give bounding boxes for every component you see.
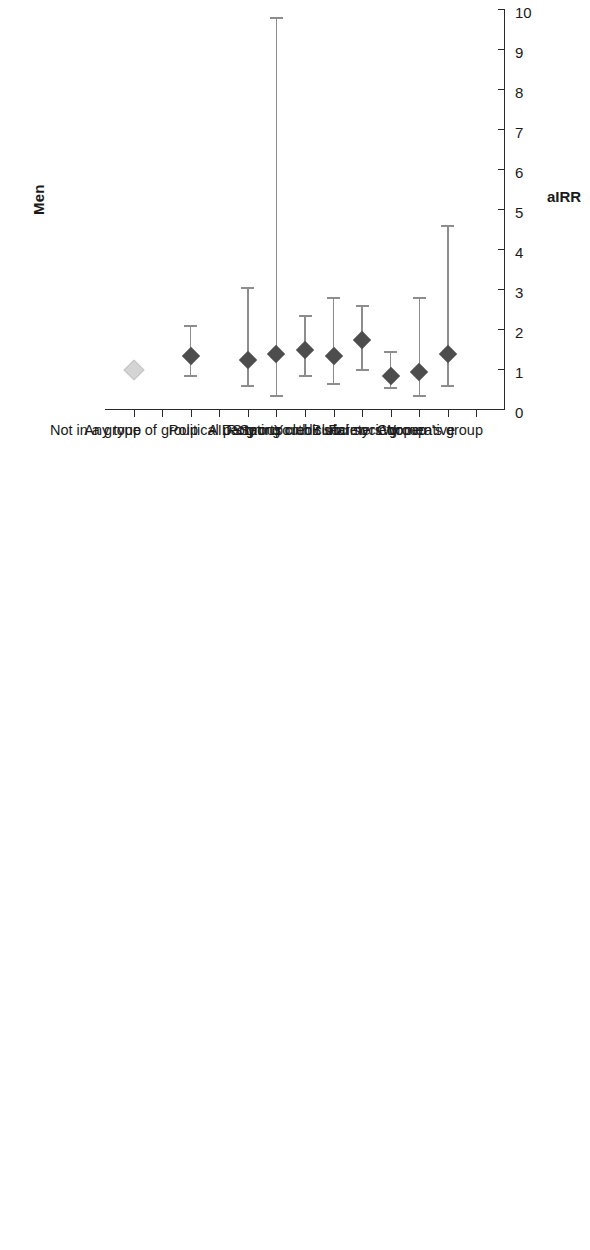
value-tick-label: 9 <box>515 44 523 61</box>
category-tick <box>476 410 477 417</box>
confidence-interval-cap <box>241 287 254 289</box>
value-tick <box>498 129 505 130</box>
value-axis-men <box>504 10 505 410</box>
value-tick <box>498 329 505 330</box>
confidence-interval-cap <box>184 325 197 327</box>
confidence-interval-cap <box>299 375 312 377</box>
confidence-interval-cap <box>384 351 397 353</box>
category-tick <box>448 410 449 417</box>
estimate-marker <box>382 367 400 385</box>
estimate-marker <box>324 347 342 365</box>
value-tick-label: 0 <box>515 404 523 421</box>
confidence-interval-cap <box>384 387 397 389</box>
value-tick <box>498 49 505 50</box>
category-tick <box>134 410 135 417</box>
panel-women: Women 0123aIRRWomen's groupCooperativeFa… <box>0 625 590 1250</box>
confidence-interval-bar <box>276 18 278 396</box>
value-tick <box>498 409 505 410</box>
panel-title-men: Men <box>30 184 47 215</box>
confidence-interval-cap <box>441 225 454 227</box>
confidence-interval-bar <box>333 298 335 384</box>
estimate-marker <box>353 331 371 349</box>
value-tick-label: 10 <box>515 4 532 21</box>
value-tick-label: 7 <box>515 124 523 141</box>
value-tick-label: 8 <box>515 84 523 101</box>
confidence-interval-bar <box>247 288 249 386</box>
plot-area-men: 012345678910aIRRWomen's groupCooperative… <box>105 10 505 410</box>
estimate-marker <box>267 345 285 363</box>
category-tick <box>305 410 306 417</box>
category-tick <box>248 410 249 417</box>
category-tick <box>419 410 420 417</box>
estimate-marker <box>296 341 314 359</box>
estimate-marker <box>239 351 257 369</box>
value-tick <box>498 169 505 170</box>
panel-men: Men 012345678910aIRRWomen's groupCoopera… <box>0 0 590 625</box>
confidence-interval-cap <box>413 395 426 397</box>
category-tick <box>191 410 192 417</box>
value-tick <box>498 9 505 10</box>
confidence-interval-cap <box>327 297 340 299</box>
category-label: Not in a group <box>49 422 140 438</box>
value-tick <box>498 249 505 250</box>
value-tick-label: 1 <box>515 364 523 381</box>
confidence-interval-cap <box>413 297 426 299</box>
forest-plot-figure: Men 012345678910aIRRWomen's groupCoopera… <box>0 0 590 1250</box>
value-tick-label: 4 <box>515 244 523 261</box>
confidence-interval-cap <box>356 305 369 307</box>
value-tick <box>498 209 505 210</box>
value-tick-label: 6 <box>515 164 523 181</box>
value-tick <box>498 369 505 370</box>
estimate-marker <box>439 345 457 363</box>
value-tick-label: 5 <box>515 204 523 221</box>
confidence-interval-cap <box>241 385 254 387</box>
category-tick <box>362 410 363 417</box>
category-tick <box>334 410 335 417</box>
confidence-interval-cap <box>184 375 197 377</box>
axis-title-airr: aIRR <box>547 188 581 205</box>
category-tick <box>276 410 277 417</box>
confidence-interval-cap <box>327 383 340 385</box>
plot-canvas-men: 012345678910aIRRWomen's groupCooperative… <box>105 10 505 410</box>
confidence-interval-cap <box>270 395 283 397</box>
confidence-interval-cap <box>441 385 454 387</box>
estimate-marker <box>182 347 200 365</box>
value-tick-label: 3 <box>515 284 523 301</box>
confidence-interval-cap <box>270 17 283 19</box>
value-tick-label: 2 <box>515 324 523 341</box>
confidence-interval-cap <box>299 315 312 317</box>
estimate-marker <box>410 363 428 381</box>
category-tick <box>219 410 220 417</box>
category-tick <box>162 410 163 417</box>
reference-marker <box>123 359 144 380</box>
value-tick <box>498 89 505 90</box>
value-tick <box>498 289 505 290</box>
confidence-interval-cap <box>356 369 369 371</box>
category-tick <box>391 410 392 417</box>
